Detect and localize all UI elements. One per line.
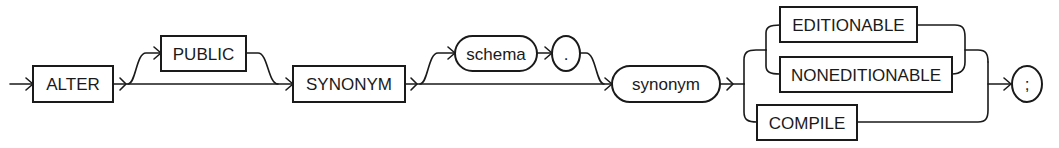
alter-label: ALTER — [46, 75, 100, 94]
main-track-1 — [113, 78, 293, 90]
schema-label: schema — [466, 45, 526, 64]
editionable-keyword-box: EDITIONABLE — [780, 7, 917, 42]
noneditionable-label: NONEDITIONABLE — [791, 66, 941, 85]
exit-track — [988, 78, 1011, 90]
public-keyword-box: PUBLIC — [161, 36, 246, 71]
editionable-label: EDITIONABLE — [792, 16, 904, 35]
public-label: PUBLIC — [173, 45, 234, 64]
semicolon-label: ; — [1025, 75, 1030, 94]
dot-label: . — [564, 45, 569, 64]
compile-label: COMPILE — [769, 114, 846, 133]
synonym-keyword-label: SYNONYM — [306, 75, 392, 94]
semicolon-terminator-circle: ; — [1012, 66, 1042, 102]
syntax-diagram: ALTER PUBLIC SYNONYM schema — [0, 0, 1059, 148]
alter-keyword-box: ALTER — [33, 66, 113, 102]
synonym-keyword-box: SYNONYM — [293, 66, 405, 102]
synonym-identifier-pill: synonym — [612, 66, 720, 102]
entry-arrow-icon — [10, 78, 33, 90]
dot-punctuation-circle: . — [552, 36, 580, 71]
schema-identifier-pill: schema — [455, 36, 537, 71]
main-track-2 — [405, 78, 612, 90]
noneditionable-keyword-box: NONEDITIONABLE — [780, 57, 952, 92]
synonym-identifier-label: synonym — [632, 75, 700, 94]
compile-keyword-box: COMPILE — [757, 105, 857, 140]
